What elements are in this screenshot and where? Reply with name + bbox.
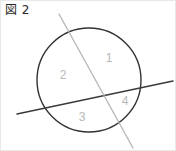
region-label-1: 1 xyxy=(106,51,113,65)
figure-container: 図 2 1 2 3 4 xyxy=(0,0,176,151)
region-label-3: 3 xyxy=(79,110,86,124)
region-label-4: 4 xyxy=(122,94,129,108)
region-label-2: 2 xyxy=(60,68,67,82)
geometry-diagram: 1 2 3 4 xyxy=(1,1,176,151)
circle-shape xyxy=(37,28,141,132)
